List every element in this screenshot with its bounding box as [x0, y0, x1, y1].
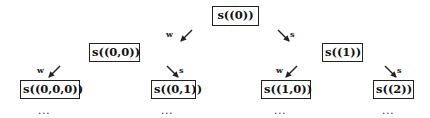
node-n2: s((2)): [373, 80, 414, 99]
continuation-ellipsis: ...: [161, 106, 174, 116]
node-n000: s((0,0,0)): [20, 80, 80, 99]
edge-label-s: s: [179, 66, 184, 74]
edge-label-w: w: [276, 66, 283, 74]
arrow-down-left-icon: [286, 66, 297, 77]
node-n1: s((1)): [322, 43, 363, 62]
node-n01: s((0,1)): [151, 80, 196, 99]
edge-label-w: w: [37, 66, 44, 74]
edge-label-s: s: [290, 30, 295, 38]
edge-label-w: w: [166, 30, 173, 38]
continuation-ellipsis: ...: [38, 106, 51, 116]
arrow-down-left-icon: [49, 66, 60, 77]
arrow-down-right-icon: [167, 66, 178, 77]
node-n0: s((0)): [212, 6, 259, 26]
arrow-down-right-icon: [278, 30, 289, 41]
node-n00: s((0,0)): [89, 43, 140, 62]
edge-label-s: s: [397, 66, 402, 74]
arrow-down-right-icon: [385, 66, 396, 77]
continuation-ellipsis: ...: [382, 106, 395, 116]
node-n10: s((1,0)): [261, 80, 311, 99]
arrow-down-left-icon: [181, 30, 192, 41]
continuation-ellipsis: ...: [274, 106, 287, 116]
